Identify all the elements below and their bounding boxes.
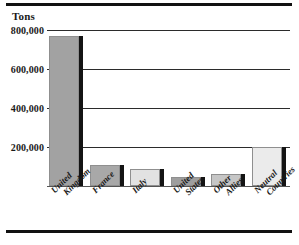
gridline	[47, 69, 290, 70]
bar-chart-figure: Tons 200,000400,000600,000800,000 United…	[0, 0, 299, 245]
y-tick-label: 800,000	[0, 25, 44, 36]
y-axis-tick-labels: 200,000400,000600,000800,000	[0, 30, 44, 186]
gridline	[47, 108, 290, 109]
bar-shadow	[160, 169, 164, 186]
y-axis-title: Tons	[12, 10, 35, 22]
y-tick-label: 400,000	[0, 103, 44, 114]
bottom-rule	[6, 230, 292, 233]
top-rule	[6, 3, 292, 6]
plot-area	[47, 30, 290, 186]
y-tick-label: 600,000	[0, 64, 44, 75]
y-tick-label: 200,000	[0, 142, 44, 153]
bar-shadow	[120, 165, 124, 186]
x-axis-tick-labels: UnitedKingdomFranceItalyUnitedStatesOthe…	[47, 188, 290, 230]
gridline	[47, 30, 290, 31]
